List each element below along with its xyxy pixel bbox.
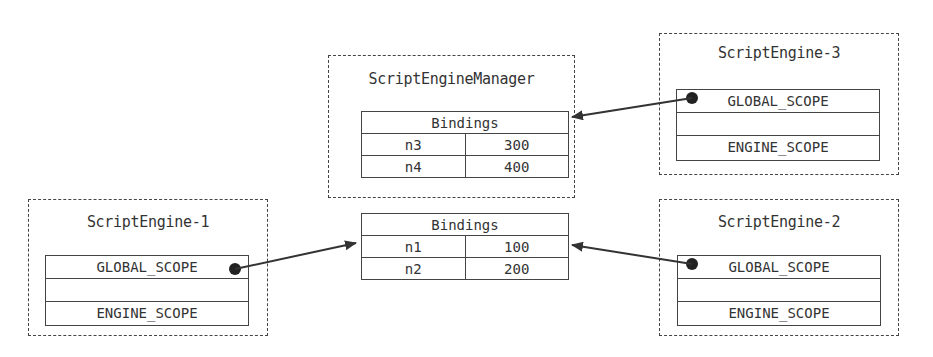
script-engine-2-title: ScriptEngine-2 <box>660 213 898 231</box>
shared-bindings-table: Bindings n1 100 n2 200 <box>361 213 569 280</box>
engine-scope-row: ENGINE_SCOPE <box>677 136 879 159</box>
empty-scope-row <box>678 279 880 302</box>
binding-name: n4 <box>362 156 466 178</box>
engine-scope-row: ENGINE_SCOPE <box>46 302 248 325</box>
global-scope-row: GLOBAL_SCOPE <box>46 256 248 279</box>
empty-scope-row <box>46 279 248 302</box>
global-scope-row: GLOBAL_SCOPE <box>678 256 880 279</box>
manager-bindings-table: Bindings n3 300 n4 400 <box>361 111 569 178</box>
bindings-header: Bindings <box>362 112 569 134</box>
binding-value: 300 <box>465 134 569 156</box>
table-row: n3 300 <box>362 134 569 156</box>
empty-scope-row <box>677 113 879 136</box>
binding-value: 400 <box>465 156 569 178</box>
bindings-header: Bindings <box>362 214 569 236</box>
script-engine-3-title: ScriptEngine-3 <box>660 44 898 62</box>
binding-value: 100 <box>465 236 569 258</box>
engine-scope-row: ENGINE_SCOPE <box>678 302 880 325</box>
script-engine-1-title: ScriptEngine-1 <box>29 213 267 231</box>
script-engine-3-scopes: GLOBAL_SCOPE ENGINE_SCOPE <box>676 89 880 161</box>
table-row: n4 400 <box>362 156 569 178</box>
binding-name: n1 <box>362 236 466 258</box>
binding-name: n3 <box>362 134 466 156</box>
global-scope-row: GLOBAL_SCOPE <box>677 90 879 113</box>
binding-value: 200 <box>465 258 569 280</box>
script-engine-manager-title: ScriptEngineManager <box>329 70 574 88</box>
script-engine-1-scopes: GLOBAL_SCOPE ENGINE_SCOPE <box>45 255 249 326</box>
binding-name: n2 <box>362 258 466 280</box>
table-row: n1 100 <box>362 236 569 258</box>
script-engine-2-scopes: GLOBAL_SCOPE ENGINE_SCOPE <box>677 255 881 326</box>
table-row: n2 200 <box>362 258 569 280</box>
